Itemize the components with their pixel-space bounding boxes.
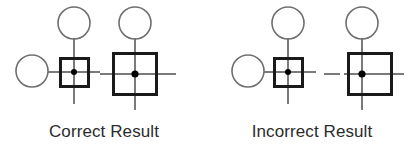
free-circle-left	[16, 55, 48, 87]
origin-dot-small-square	[285, 69, 291, 75]
origin-dot-large-square	[131, 70, 138, 77]
top-circle-over-large-square	[119, 7, 151, 39]
panel-correct-result: Correct Result	[0, 0, 208, 151]
top-circle-over-large-square	[346, 7, 378, 39]
panel-incorrect-result: Incorrect Result	[208, 0, 416, 151]
origin-dot-small-square	[71, 69, 77, 75]
constraint-diagram-figure: Correct Result	[0, 0, 416, 151]
top-circle-over-small-square	[272, 7, 304, 39]
caption-correct-result: Correct Result	[0, 122, 208, 142]
diagram-correct-result	[0, 0, 208, 122]
origin-dot-large-square	[358, 70, 365, 77]
caption-incorrect-result: Incorrect Result	[208, 122, 416, 142]
top-circle-over-small-square	[58, 7, 90, 39]
free-circle-left	[232, 55, 264, 87]
diagram-incorrect-result	[208, 0, 416, 122]
